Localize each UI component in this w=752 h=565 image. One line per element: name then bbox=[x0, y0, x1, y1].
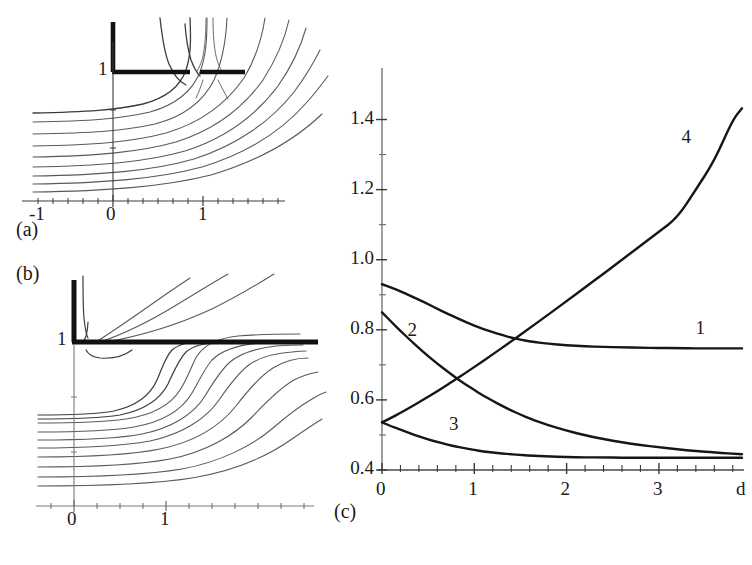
panel-a-jet-lines bbox=[196, 18, 228, 99]
curve-label-2: 2 bbox=[407, 319, 417, 341]
panel-a-label: (a) bbox=[16, 218, 38, 241]
panel-b-xtick-1: 1 bbox=[160, 508, 170, 530]
x-tick-label-3: 3 bbox=[653, 478, 663, 500]
panel-b-obstacle bbox=[72, 280, 318, 342]
y-tick-label-0.4: 0.4 bbox=[334, 457, 374, 479]
curve-label-3: 3 bbox=[449, 413, 459, 435]
panel-a-svg bbox=[0, 0, 330, 262]
curve-label-1: 1 bbox=[695, 317, 705, 339]
panel-b-xtick-0: 0 bbox=[67, 508, 77, 530]
panel-b-label: (b) bbox=[16, 262, 39, 285]
panel-c-label: (c) bbox=[334, 500, 356, 523]
figure-root: 1 -1 0 1 (a) bbox=[0, 0, 752, 565]
panel-b-ytick-1: 1 bbox=[57, 328, 67, 350]
panel-a-streamlines bbox=[33, 18, 328, 192]
x-tick-label-0: 0 bbox=[376, 478, 386, 500]
x-axis-label-d: d bbox=[736, 478, 746, 500]
panel-a-separatrix bbox=[33, 18, 200, 113]
panel-a-xtick-1: 1 bbox=[198, 203, 208, 225]
panel-a-streamline-plot: 1 -1 0 1 bbox=[0, 0, 330, 262]
panel-a-obstacle bbox=[112, 22, 245, 72]
panel-c-line-chart: 12340.40.60.81.01.21.40123d bbox=[330, 0, 752, 565]
x-tick-label-1: 1 bbox=[468, 478, 478, 500]
y-tick-label-0.8: 0.8 bbox=[334, 317, 374, 339]
panel-a-xtick-0: 0 bbox=[106, 203, 116, 225]
y-tick-label-0.6: 0.6 bbox=[334, 387, 374, 409]
y-tick-label-1.4: 1.4 bbox=[334, 107, 374, 129]
chart-text-layer: 12340.40.60.81.01.21.40123d bbox=[330, 0, 752, 565]
y-tick-label-1.0: 1.0 bbox=[334, 247, 374, 269]
panel-b-streamline-plot: 1 0 1 bbox=[0, 258, 330, 565]
panel-a-ytick-1: 1 bbox=[98, 58, 108, 80]
curve-label-4: 4 bbox=[682, 126, 692, 148]
panel-b-upper-rays bbox=[96, 274, 274, 342]
x-tick-label-2: 2 bbox=[561, 478, 571, 500]
y-tick-label-1.2: 1.2 bbox=[334, 177, 374, 199]
